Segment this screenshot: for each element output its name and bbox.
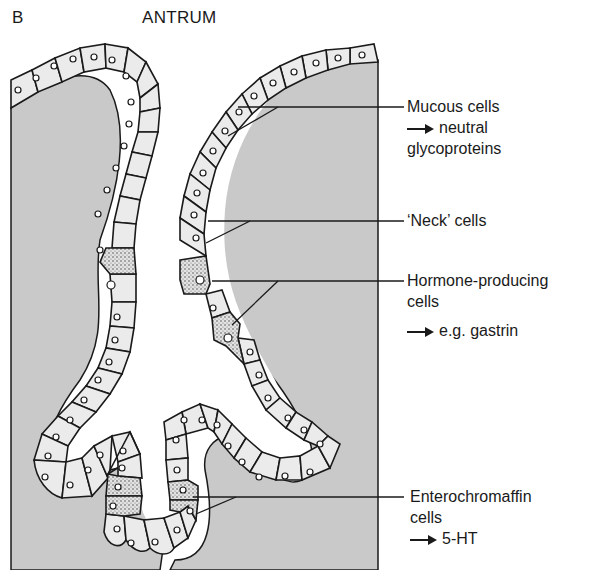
- arrow-5ht: 5-HT: [410, 528, 532, 549]
- hormone-cell-right-1: [180, 256, 210, 294]
- hormone-cell-left: [100, 248, 136, 274]
- label-hormone-producing-cells: Hormone-producing cells e.g. gastrin: [407, 270, 548, 341]
- label-mucous-cells: Mucous cells neutral glycoproteins: [407, 96, 501, 159]
- right-arrow-icon: [407, 327, 435, 337]
- label-enterochromaffin-cells: Enterochromaffin cells 5-HT: [410, 486, 532, 549]
- right-arrow-icon: [407, 124, 435, 134]
- right-arrow-icon: [410, 535, 438, 545]
- enterochromaffin-cell-1: [106, 474, 142, 496]
- arrow-neutral-glycoproteins: neutral: [407, 117, 501, 138]
- arrow-gastrin: e.g. gastrin: [407, 320, 548, 341]
- label-neck-cells: ‘Neck’ cells: [407, 210, 486, 231]
